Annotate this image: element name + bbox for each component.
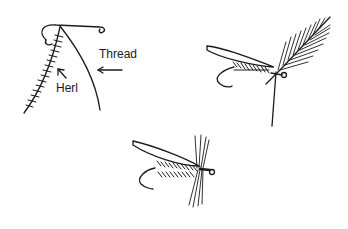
- herl-label: Herl: [56, 82, 78, 94]
- thread-label: Thread: [99, 48, 137, 60]
- panel-3-finished-fly: [133, 135, 215, 207]
- panel-1-herl-thread: [24, 25, 122, 113]
- fly-tying-diagram: [0, 0, 348, 229]
- panel-2-wing-hackle: [207, 17, 330, 126]
